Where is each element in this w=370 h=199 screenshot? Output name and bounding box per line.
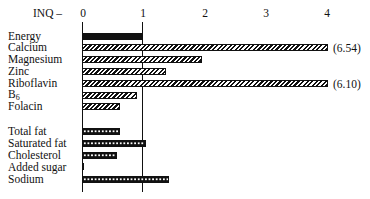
label-sodium: Sodium [8, 173, 44, 185]
label-saturated-fat: Saturated fat [8, 137, 66, 149]
bar-total-fat [82, 128, 120, 135]
tick-0: 0 [80, 7, 86, 19]
calcium-value-note: (6.54) [333, 42, 361, 54]
bar-energy [82, 33, 143, 40]
axis-name: INQ – [33, 7, 62, 19]
bar-cholesterol [82, 152, 117, 159]
tick-1: 1 [140, 7, 146, 19]
bar-sodium [82, 176, 169, 183]
bar-added-sugar [82, 163, 84, 170]
bar-magnesium [82, 56, 202, 63]
label-zinc: Zinc [8, 65, 29, 77]
tick-2: 2 [202, 7, 208, 19]
bar-saturated-fat [82, 140, 146, 147]
label-cholesterol: Cholesterol [8, 149, 61, 161]
tick-4: 4 [324, 7, 330, 19]
bar-calcium [82, 44, 328, 51]
bar-b6 [82, 92, 137, 99]
label-magnesium: Magnesium [8, 53, 62, 65]
bar-zinc [82, 68, 166, 75]
riboflavin-value-note: (6.10) [333, 78, 361, 90]
bar-folacin [82, 103, 120, 110]
label-added-sugar: Added sugar [8, 161, 66, 173]
inq-bar-chart: INQ – 0 1 2 3 4 Energy Calcium Magnesium… [0, 0, 370, 199]
label-calcium: Calcium [8, 41, 47, 53]
label-total-fat: Total fat [8, 125, 46, 137]
tick-3: 3 [263, 7, 269, 19]
bar-riboflavin [82, 80, 328, 87]
label-folacin: Folacin [8, 100, 43, 112]
